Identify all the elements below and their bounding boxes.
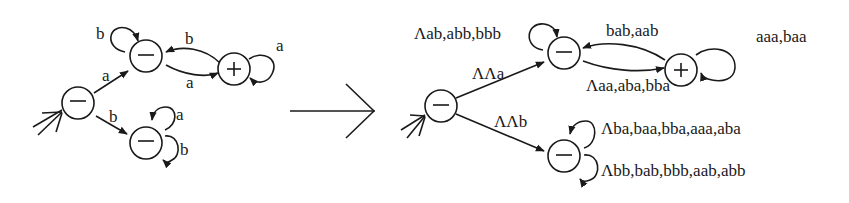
state-q1 [130,40,162,72]
edge-label: a [176,105,184,124]
edge-label: a [102,66,110,85]
edge-q0-q1 [94,71,128,93]
edge-label: ΛΛb [494,112,527,131]
edge-label: b [109,107,118,126]
start-arrow-icon [33,110,62,135]
edge-label: a [276,36,284,55]
edge-q2-q1 [166,48,220,63]
state-p0 [425,90,457,122]
edge-label: b [180,140,189,159]
transform-arrow-icon [290,84,375,138]
start-arrow-icon [401,115,425,138]
edge-label: aaa,baa [756,27,807,46]
left-automaton: a b b a b a a b [33,24,284,162]
state-p2-final [665,54,697,86]
edge-label: bab,aab [606,21,658,40]
edge-label: Λbb,bab,bbb,aab,abb [601,161,746,180]
edge-label: b [185,29,194,48]
edge-label: Λaa,aba,bba [586,76,671,95]
edge-label: Λab,abb,bbb [414,24,501,43]
edge-p1-p2 [583,61,664,71]
edge-label: a [186,73,194,92]
edge-q3-self-a [152,107,175,130]
edge-p2-p1 [583,44,665,60]
right-automaton: ΛΛa ΛΛb Λab,abb,bbb Λaa,aba,bba bab,aab … [401,21,807,181]
state-q2-final [218,53,250,85]
edge-p2-self [696,49,735,81]
fa-transformation-diagram: a b b a b a a b [0,0,849,203]
state-q0 [62,87,94,119]
edge-label: b [96,24,105,43]
state-p3 [548,140,580,172]
edge-q3-self-b [163,136,178,162]
state-p1 [548,37,580,69]
state-q3 [130,127,162,159]
edge-label: Λba,baa,bba,aaa,aba [601,119,741,138]
edge-label: ΛΛa [472,64,505,83]
edge-p3-self-bottom [580,155,598,182]
edge-q2-self [249,55,274,82]
